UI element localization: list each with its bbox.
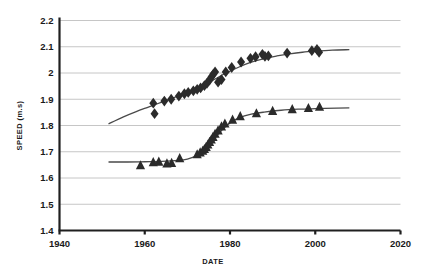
y-tick-label-2.1: 2.1	[40, 41, 54, 52]
series-triangle-series	[109, 102, 350, 170]
y-tick-label-1.9: 1.9	[40, 94, 53, 105]
speed-vs-date-scatter-chart: 1.41.51.61.71.81.922.12.2194019601980200…	[0, 0, 432, 274]
y-tick-label-1.7: 1.7	[40, 146, 53, 157]
data-point-diamond	[167, 94, 175, 105]
tick-labels-group: 1.41.51.61.71.81.922.12.2194019601980200…	[40, 15, 411, 249]
y-axis-title: SPEED (m.s)	[15, 100, 24, 150]
data-series-group	[109, 44, 350, 169]
data-point-diamond	[283, 48, 291, 59]
x-tick-label-1980: 1980	[219, 238, 240, 249]
x-axis-title: DATE	[202, 257, 223, 266]
y-tick-label-2.2: 2.2	[40, 15, 53, 26]
x-tick-label-1960: 1960	[134, 238, 155, 249]
data-point-triangle	[288, 104, 297, 113]
y-tick-label-1.5: 1.5	[40, 199, 54, 210]
data-point-diamond	[160, 96, 168, 107]
y-tick-label-2: 2	[48, 67, 53, 78]
gridlines-group	[60, 21, 401, 205]
data-point-triangle	[304, 103, 313, 112]
series-diamond-series	[109, 44, 350, 124]
fit-curve-triangle-series	[109, 108, 350, 162]
x-tick-label-1940: 1940	[49, 238, 70, 249]
fit-curve-diamond-series	[109, 50, 350, 124]
x-tick-label-2020: 2020	[390, 238, 411, 249]
y-tick-label-1.4: 1.4	[40, 225, 54, 236]
data-point-triangle	[236, 111, 245, 120]
data-point-triangle	[315, 102, 324, 111]
chart-container: 1.41.51.61.71.81.922.12.2194019601980200…	[0, 0, 432, 274]
data-point-diamond	[151, 108, 159, 119]
data-point-triangle	[175, 153, 184, 162]
y-tick-label-1.8: 1.8	[40, 120, 53, 131]
y-tick-label-1.6: 1.6	[40, 172, 53, 183]
x-tick-label-2000: 2000	[305, 238, 326, 249]
data-point-diamond	[237, 57, 245, 68]
